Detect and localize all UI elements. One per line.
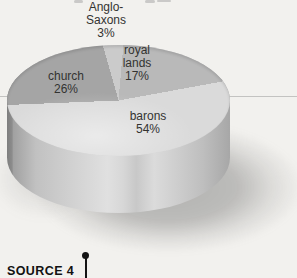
slice-label-text: royal (123, 44, 152, 57)
source-caption: SOURCE 4 (7, 264, 74, 278)
pie-front-highlight (7, 45, 230, 156)
slice-label-anglo-saxons: Anglo- Saxons 3% (86, 1, 126, 39)
slice-percent: 3% (86, 27, 126, 40)
cropped-text-fragment (74, 0, 83, 3)
marker-line (85, 258, 88, 278)
slice-label-barons: barons 54% (130, 110, 167, 136)
slice-percent: 17% (123, 70, 152, 83)
slice-label-church: church 26% (48, 70, 84, 96)
slice-label-royal-lands: royal lands 17% (123, 44, 152, 82)
scanned-pie-chart-page: Anglo- Saxons 3% royal lands 17% church … (0, 0, 297, 278)
slice-label-text: barons (130, 110, 167, 123)
slice-label-text: church (48, 70, 84, 83)
slice-percent: 54% (130, 123, 167, 136)
slice-percent: 26% (48, 83, 84, 96)
slice-label-text: Anglo- (86, 1, 126, 14)
slice-label-text: lands (123, 57, 152, 70)
slice-label-text: Saxons (86, 14, 126, 27)
cropped-text-fragment (157, 0, 171, 2)
cropped-text-fragment (145, 0, 155, 3)
pie-top-face (7, 45, 230, 156)
